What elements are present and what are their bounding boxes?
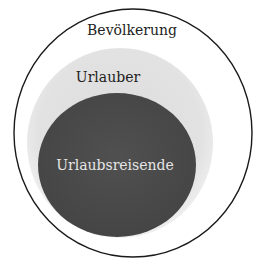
inner-set-label: Urlaubsreisende bbox=[56, 158, 174, 172]
middle-set-label: Urlauber bbox=[76, 70, 140, 84]
outer-set-label: Bevölkerung bbox=[87, 23, 177, 37]
nested-set-diagram: Bevölkerung Urlauber Urlaubsreisende bbox=[0, 0, 261, 263]
diagram-canvas bbox=[0, 0, 261, 263]
